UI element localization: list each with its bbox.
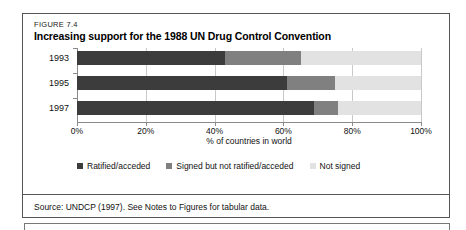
- y-axis-category-label: 1995: [9, 78, 69, 88]
- bar-segment-notsigned: [338, 101, 421, 115]
- source-divider: [23, 194, 449, 195]
- bar-segment-notsigned: [301, 51, 421, 65]
- bar-segment-ratified: [77, 76, 287, 90]
- bar-row: [77, 101, 421, 115]
- figure-screenshot: FIGURE 7.4 Increasing support for the 19…: [0, 0, 466, 230]
- legend-label: Not signed: [320, 161, 361, 171]
- y-axis-tick: [73, 98, 77, 99]
- x-axis-tick-label: 20%: [126, 126, 166, 136]
- source-note: Source: UNDCP (1997). See Notes to Figur…: [34, 202, 269, 212]
- grid-line: [421, 48, 422, 122]
- bar-segment-notsigned: [335, 76, 421, 90]
- x-axis-title: % of countries in world: [77, 136, 421, 146]
- legend-swatch-icon: [310, 163, 316, 169]
- lower-empty-box: [24, 223, 450, 230]
- bar-row: [77, 76, 421, 90]
- y-axis-category-label: 1993: [9, 53, 69, 63]
- figure-box: FIGURE 7.4 Increasing support for the 19…: [22, 13, 450, 218]
- chart-plot-area: 0%20%40%60%80%100%199319951997: [77, 48, 421, 122]
- y-axis-tick: [73, 48, 77, 49]
- bar-segment-signed: [225, 51, 301, 65]
- legend-item: Ratified/acceded: [77, 161, 150, 171]
- legend-item: Signed but not ratified/acceded: [166, 161, 293, 171]
- figure-number-label: FIGURE 7.4: [34, 20, 78, 29]
- x-axis-tick-label: 60%: [263, 126, 303, 136]
- y-axis-tick: [73, 73, 77, 74]
- bar-segment-ratified: [77, 51, 225, 65]
- y-axis-category-label: 1997: [9, 103, 69, 113]
- bar-row: [77, 51, 421, 65]
- figure-title: Increasing support for the 1988 UN Drug …: [34, 30, 331, 42]
- x-axis-line: [77, 122, 421, 123]
- legend-swatch-icon: [166, 163, 172, 169]
- x-axis-tick-label: 0%: [57, 126, 97, 136]
- legend-label: Signed but not ratified/acceded: [176, 161, 293, 171]
- x-axis-tick-label: 80%: [332, 126, 372, 136]
- x-axis-tick-label: 40%: [195, 126, 235, 136]
- chart-legend: Ratified/accededSigned but not ratified/…: [77, 161, 437, 171]
- legend-label: Ratified/acceded: [87, 161, 150, 171]
- legend-item: Not signed: [310, 161, 361, 171]
- x-axis-tick-label: 100%: [401, 126, 441, 136]
- legend-swatch-icon: [77, 163, 83, 169]
- bar-segment-signed: [314, 101, 338, 115]
- bar-segment-signed: [287, 76, 335, 90]
- bar-segment-ratified: [77, 101, 314, 115]
